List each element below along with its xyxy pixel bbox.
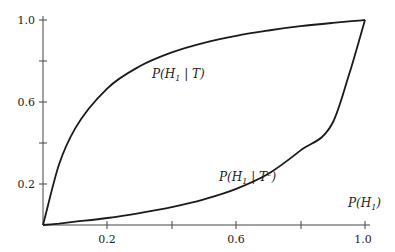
y-tick-label-1.0: 1.0: [18, 14, 36, 27]
label-posterior-given-positive: P(H1 | T): [151, 67, 205, 83]
curve-posterior-given-negative: [43, 20, 365, 225]
label-posterior-given-negative: P(H1 | Tc): [218, 169, 277, 186]
x-tick-label-0.2: 0.2: [98, 233, 116, 246]
x-tick-label-1.0: 1.0: [354, 233, 372, 246]
x-tick-label-0.6: 0.6: [227, 233, 245, 246]
x-axis-label: P(H1): [347, 196, 381, 212]
curve-posterior-given-positive: [43, 20, 365, 225]
posterior-probability-chart: 1.0 0.6 0.2 0.2 0.6 1.0 P(H1 | T) P(H1 |…: [0, 0, 395, 252]
y-tick-label-0.2: 0.2: [18, 178, 36, 191]
y-tick-label-0.6: 0.6: [18, 96, 36, 109]
